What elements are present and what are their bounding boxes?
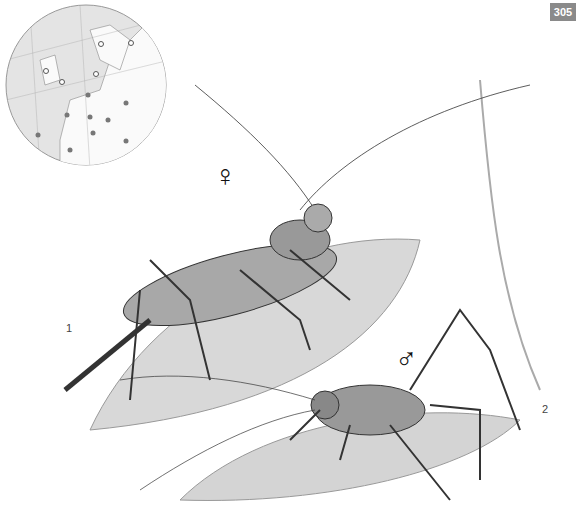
- plant-stem: [480, 80, 540, 390]
- figure-label-1: 1: [66, 322, 72, 334]
- page-number-badge: 305: [550, 3, 576, 21]
- male-symbol: ♂: [395, 344, 418, 374]
- distribution-map: [6, 5, 170, 170]
- illustration-page: 305 ♀ ♂ 1 2: [0, 0, 579, 511]
- figure-label-2: 2: [542, 403, 548, 415]
- female-symbol: ♀: [214, 161, 237, 191]
- illustration-canvas: [0, 0, 579, 511]
